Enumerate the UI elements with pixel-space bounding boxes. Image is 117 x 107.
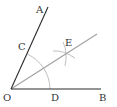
label-b: B (99, 92, 106, 103)
label-a: A (35, 4, 44, 15)
label-c: C (18, 41, 26, 52)
angle-bisector-diagram: A C E O D B (0, 0, 117, 107)
label-o: O (3, 92, 11, 103)
label-e: E (65, 37, 72, 48)
diagram-canvas: A C E O D B (0, 0, 117, 107)
label-d: D (51, 92, 59, 103)
arc-from-c (53, 51, 75, 58)
